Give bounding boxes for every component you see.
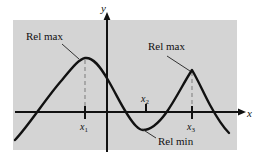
tick-label-x1-subscript: 1: [84, 126, 88, 134]
tick-label-x2: x2: [141, 94, 149, 104]
leader-line-rel-min: [142, 129, 156, 138]
function-curve: [15, 58, 229, 140]
y-axis-label: y: [101, 3, 106, 14]
leader-line-rel-max-2: [167, 56, 190, 71]
annotation-rel-max-2: Rel max: [148, 41, 185, 52]
tick-label-x3: x3: [187, 122, 195, 132]
tick-label-x3-subscript: 3: [191, 126, 195, 134]
leader-line-rel-max-1: [62, 44, 79, 59]
annotation-rel-max-1: Rel max: [26, 31, 63, 42]
x-axis-label: x: [247, 108, 252, 119]
relative-extrema-figure: Rel max Rel max Rel min y x x1 x2 x3: [0, 0, 260, 164]
graph-canvas: [0, 0, 260, 164]
tick-label-x1: x1: [80, 122, 88, 132]
tick-label-x2-subscript: 2: [145, 98, 149, 106]
annotation-rel-min: Rel min: [158, 136, 193, 147]
